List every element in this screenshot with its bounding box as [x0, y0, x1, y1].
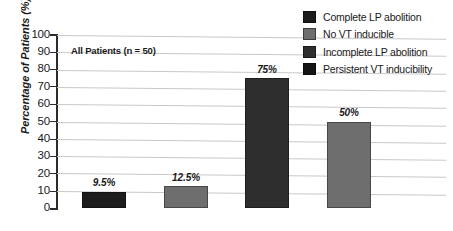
bar-value-label: 9.5%: [82, 177, 126, 188]
legend-item-persistent-vt-inducibility[interactable]: Persistent VT inducibility: [303, 61, 453, 79]
legend: Complete LP abolition No VT inducible In…: [303, 8, 453, 78]
y-axis-tick: [50, 156, 57, 157]
legend-item-complete-lp-abolition[interactable]: Complete LP abolition: [303, 8, 453, 26]
y-axis-tick: [50, 52, 57, 53]
y-axis-tick: [50, 139, 57, 140]
y-tick-label: 50: [6, 116, 50, 127]
legend-swatch-icon: [303, 46, 316, 58]
y-tick-label: 10: [6, 185, 50, 196]
y-tick-label: 30: [6, 150, 50, 161]
y-tick-label: 90: [6, 46, 50, 57]
legend-swatch-icon: [303, 28, 316, 40]
y-tick-label: 20: [6, 168, 50, 179]
bar-value-label: 12.5%: [164, 172, 208, 183]
legend-item-label: No VT inducible: [323, 28, 394, 40]
legend-item-label: Incomplete LP abolition: [323, 46, 427, 58]
y-tick-label: 70: [6, 81, 50, 92]
y-axis-tick: [50, 69, 57, 70]
legend-item-no-vt-inducible[interactable]: No VT inducible: [303, 26, 453, 44]
y-axis-tick: [50, 104, 57, 105]
y-axis-tick: [50, 173, 57, 174]
legend-swatch-icon: [303, 11, 316, 23]
y-axis-tick-labels: 100 90 80 70 60 50 40 30 20 10 0: [0, 0, 50, 231]
bar-persistent-vt-inducibility[interactable]: [327, 122, 371, 209]
bar-no-vt-inducible[interactable]: [164, 186, 208, 208]
legend-item-incomplete-lp-abolition[interactable]: Incomplete LP abolition: [303, 43, 453, 61]
y-tick-label: 60: [6, 98, 50, 109]
legend-item-label: Complete LP abolition: [323, 11, 421, 23]
y-axis-tick: [50, 208, 58, 210]
bar-value-label: 75%: [245, 64, 289, 75]
legend-swatch-icon: [303, 63, 316, 75]
bar-incomplete-lp-abolition[interactable]: [245, 78, 289, 208]
y-axis-tick: [50, 86, 57, 87]
y-tick-label: 100: [6, 29, 50, 40]
bar-complete-lp-abolition[interactable]: [82, 192, 126, 208]
bar-value-label: 50%: [327, 107, 371, 118]
y-tick-label: 40: [6, 133, 50, 144]
y-axis-tick: [50, 191, 57, 192]
bar-chart: Percentage of Patients (%) 100 90 80 70 …: [0, 0, 453, 231]
y-tick-label: 0: [6, 202, 50, 213]
y-axis-tick: [50, 121, 57, 122]
y-tick-label: 80: [6, 63, 50, 74]
legend-item-label: Persistent VT inducibility: [323, 63, 432, 75]
chart-annotation: All Patients (n = 50): [71, 45, 156, 56]
